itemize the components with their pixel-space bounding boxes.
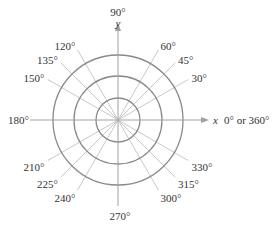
x-axis-label: x xyxy=(212,114,218,126)
angle-label-135: 135° xyxy=(37,54,58,66)
angle-label-240: 240° xyxy=(55,192,76,204)
angle-label-330: 330° xyxy=(192,161,213,173)
angle-label-300: 300° xyxy=(161,192,182,204)
angle-label-315: 315° xyxy=(178,178,199,190)
y-axis-label: y xyxy=(115,17,121,29)
neg-y-label: 270° xyxy=(110,210,131,222)
angle-label-225: 225° xyxy=(37,178,58,190)
angle-label-120: 120° xyxy=(55,40,76,52)
x-end-label: 0° or 360° xyxy=(224,114,269,126)
polar-grid-diagram: 90° y x 0° or 360° 180° 270° 30°45°60°12… xyxy=(0,0,276,227)
angle-label-210: 210° xyxy=(23,161,44,173)
angle-label-45: 45° xyxy=(178,54,193,66)
neg-x-label: 180° xyxy=(8,114,29,126)
angle-label-60: 60° xyxy=(161,40,176,52)
angle-label-150: 150° xyxy=(23,72,44,84)
x-axis-arrow-icon xyxy=(201,117,209,123)
angle-label-30: 30° xyxy=(192,72,207,84)
